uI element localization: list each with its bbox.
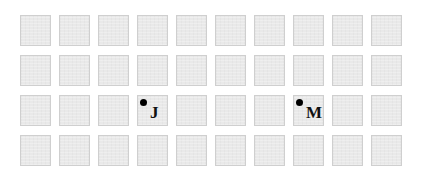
grid-cell bbox=[332, 15, 363, 46]
grid-cell bbox=[332, 55, 363, 86]
grid-cell bbox=[98, 95, 129, 126]
grid-cell bbox=[59, 15, 90, 46]
grid-cell bbox=[371, 15, 402, 46]
grid-cell bbox=[254, 15, 285, 46]
grid-cell bbox=[293, 135, 324, 166]
grid-cell bbox=[293, 15, 324, 46]
grid-cell bbox=[371, 135, 402, 166]
grid-cell bbox=[176, 55, 207, 86]
grid-cell bbox=[137, 135, 168, 166]
grid-cell bbox=[254, 55, 285, 86]
marked-cell-m: M bbox=[293, 95, 324, 126]
grid-cell bbox=[215, 15, 246, 46]
grid-cell bbox=[59, 95, 90, 126]
cell-label: M bbox=[306, 104, 322, 121]
grid-cell bbox=[20, 135, 51, 166]
grid-cell bbox=[137, 15, 168, 46]
grid-cell bbox=[176, 135, 207, 166]
grid-cell bbox=[371, 55, 402, 86]
square-grid: JM bbox=[20, 15, 402, 166]
grid-cell bbox=[20, 15, 51, 46]
grid-cell bbox=[98, 55, 129, 86]
dot-icon bbox=[296, 99, 303, 106]
grid-cell bbox=[215, 95, 246, 126]
grid-cell bbox=[215, 55, 246, 86]
cell-label: J bbox=[150, 104, 159, 121]
grid-cell bbox=[137, 55, 168, 86]
grid-cell bbox=[59, 135, 90, 166]
grid-cell bbox=[20, 95, 51, 126]
grid-cell bbox=[254, 135, 285, 166]
grid-cell bbox=[59, 55, 90, 86]
grid-cell bbox=[98, 135, 129, 166]
grid-cell bbox=[254, 95, 285, 126]
grid-cell bbox=[98, 15, 129, 46]
marked-cell-j: J bbox=[137, 95, 168, 126]
grid-cell bbox=[20, 55, 51, 86]
dot-icon bbox=[140, 99, 147, 106]
grid-cell bbox=[371, 95, 402, 126]
grid-cell bbox=[176, 95, 207, 126]
grid-cell bbox=[293, 55, 324, 86]
grid-cell bbox=[332, 95, 363, 126]
grid-cell bbox=[332, 135, 363, 166]
grid-cell bbox=[215, 135, 246, 166]
grid-cell bbox=[176, 15, 207, 46]
